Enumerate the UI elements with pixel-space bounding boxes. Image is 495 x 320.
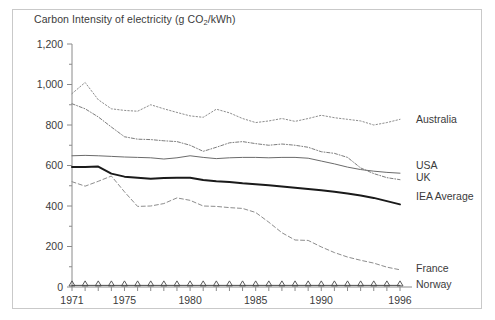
y-tick-label: 600 bbox=[45, 159, 63, 171]
y-axis: 02004006008001,0001,200 bbox=[37, 38, 72, 293]
x-tick-label: 1985 bbox=[244, 294, 268, 306]
series-label-norway: Norway bbox=[416, 278, 452, 290]
series-label-iea-average: IEA Average bbox=[416, 190, 474, 202]
y-tick-label: 0 bbox=[57, 281, 63, 293]
series-line-iea-average bbox=[72, 167, 400, 205]
chart-plot: 02004006008001,0001,200 1971197519801985… bbox=[0, 0, 495, 320]
y-tick-label: 1,000 bbox=[37, 78, 63, 90]
x-tick-label: 1971 bbox=[60, 294, 84, 306]
chart-figure: Carbon Intensity of electricity (g CO2/k… bbox=[0, 0, 495, 320]
y-tick-label: 800 bbox=[45, 119, 63, 131]
y-tick-label: 200 bbox=[45, 240, 63, 252]
x-tick-label: 1990 bbox=[310, 294, 334, 306]
series-label-usa: USA bbox=[416, 159, 438, 171]
x-tick-label: 1975 bbox=[113, 294, 137, 306]
series-line-france bbox=[72, 176, 400, 270]
series-line-uk bbox=[72, 104, 400, 180]
x-tick-label: 1980 bbox=[178, 294, 202, 306]
x-axis: 197119751980198519901996 bbox=[60, 287, 412, 306]
series-line-usa bbox=[72, 155, 400, 173]
x-tick-label: 1996 bbox=[388, 294, 412, 306]
series-lines bbox=[69, 82, 403, 285]
series-label-france: France bbox=[416, 262, 449, 274]
series-label-uk: UK bbox=[416, 171, 431, 183]
series-label-australia: Australia bbox=[416, 113, 457, 125]
y-tick-label: 400 bbox=[45, 200, 63, 212]
y-tick-label: 1,200 bbox=[37, 38, 63, 50]
series-labels: AustraliaUSAUKIEA AverageFranceNorway bbox=[416, 113, 474, 291]
series-line-australia bbox=[72, 82, 400, 125]
